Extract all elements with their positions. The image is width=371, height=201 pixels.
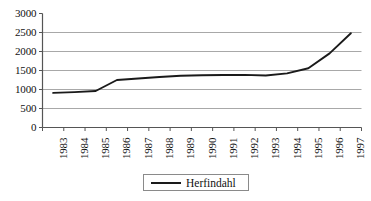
x-tick-label-1994: 1994 xyxy=(292,137,303,158)
herfindahl-line-chart: 300025002000150010005000 198319841985198… xyxy=(0,0,371,201)
x-tick-label-1983: 1983 xyxy=(58,137,69,158)
y-tick-label-0: 0 xyxy=(0,122,37,133)
x-tick-label-1995: 1995 xyxy=(313,137,324,158)
legend-line-sample xyxy=(151,182,181,184)
legend-entry-label: Herfindahl xyxy=(186,176,236,190)
chart-legend: Herfindahl xyxy=(143,174,249,191)
chart-plot-area xyxy=(0,0,371,201)
series-line-0 xyxy=(53,33,351,93)
x-tick-label-1988: 1988 xyxy=(164,137,175,158)
x-tick-label-1992: 1992 xyxy=(249,137,260,158)
data-series-group xyxy=(53,33,351,93)
x-tick-label-1996: 1996 xyxy=(334,137,345,158)
gridlines xyxy=(43,33,362,109)
x-tick-label-1997: 1997 xyxy=(355,137,366,158)
x-tick-label-1993: 1993 xyxy=(270,137,281,158)
x-tick-label-1985: 1985 xyxy=(100,137,111,158)
x-tick-label-1989: 1989 xyxy=(185,137,196,158)
x-tick-label-1991: 1991 xyxy=(228,137,239,158)
y-tick-label-3000: 3000 xyxy=(0,8,37,19)
x-tick-label-1984: 1984 xyxy=(79,137,90,158)
x-tick-label-1987: 1987 xyxy=(143,137,154,158)
y-tick-label-1500: 1500 xyxy=(0,65,37,76)
y-tick-label-2000: 2000 xyxy=(0,46,37,57)
y-tick-label-2500: 2500 xyxy=(0,27,37,38)
y-tick-label-1000: 1000 xyxy=(0,84,37,95)
x-tick-label-1986: 1986 xyxy=(121,137,132,158)
y-tick-label-500: 500 xyxy=(0,103,37,114)
x-tick-label-1990: 1990 xyxy=(207,137,218,158)
